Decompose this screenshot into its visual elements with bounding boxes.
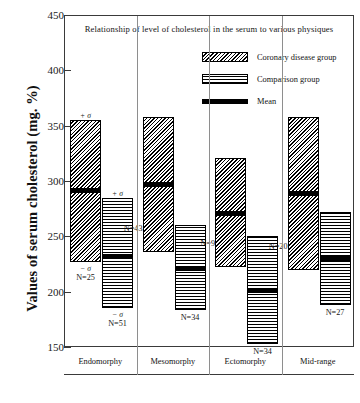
plus-sigma-label-comparison-endomorphy: + σ (96, 189, 139, 198)
y-tick-mark-400 (64, 70, 71, 71)
n-label-comparison-mid-range: N=27 (312, 308, 359, 317)
mean-line-comparison-ectomorphy (247, 288, 278, 293)
minus-sigma-label-comparison-endomorphy: − σ (96, 310, 139, 319)
mean-line-comparison-endomorphy (102, 254, 133, 259)
x-axis-label-ectomorphy: Ectomorphy (209, 357, 282, 366)
legend-label-comparison: Comparison group (257, 75, 320, 84)
y-tick-mark-200 (64, 292, 71, 293)
y-tick-label-250: 250 (24, 230, 64, 242)
x-axis-label-mid-range: Mid-range (282, 357, 355, 366)
plus-sigma-label-coronary-endomorphy: + σ (64, 111, 107, 120)
y-tick-label-350: 350 (24, 120, 64, 132)
cholesterol-bar-chart: Values of serum cholesterol (mg. %) Rela… (0, 0, 360, 403)
legend-item-comparison: Comparison group (202, 70, 352, 88)
x-axis-label-endomorphy: Endomorphy (64, 357, 137, 366)
mean-line-comparison-mid-range (320, 256, 351, 261)
legend-item-mean: Mean (202, 92, 352, 110)
mean-line-coronary-ectomorphy (215, 211, 246, 216)
y-tick-label-150: 150 (24, 341, 64, 353)
mean-line-coronary-mesomorphy (143, 182, 174, 187)
legend-label-coronary: Coronary disease group (257, 53, 337, 62)
legend-item-coronary: Coronary disease group (202, 48, 352, 66)
x-axis-label-mesomorphy: Mesomorphy (137, 357, 210, 366)
y-tick-mark-150 (64, 347, 71, 348)
y-tick-label-300: 300 (24, 175, 64, 187)
y-tick-label-400: 400 (24, 64, 64, 76)
legend: Coronary disease group Comparison group … (202, 48, 352, 114)
group-separator-2 (209, 16, 210, 347)
minus-sigma-label-coronary-endomorphy: − σ (64, 264, 107, 273)
legend-label-mean: Mean (257, 97, 276, 106)
y-tick-mark-300 (64, 181, 71, 182)
n-label-comparison-mesomorphy: N=34 (167, 313, 214, 322)
n-label-comparison-endomorphy: N=51 (94, 319, 141, 328)
mean-line-coronary-mid-range (288, 191, 319, 196)
y-tick-label-200: 200 (24, 286, 64, 298)
y-tick-mark-250 (64, 236, 71, 237)
group-separator-1 (137, 16, 138, 347)
y-axis-ticks: 450400350300250200150 (16, 0, 64, 403)
y-tick-mark-350 (64, 126, 71, 127)
group-separator-3 (282, 16, 283, 347)
mean-line-comparison-mesomorphy (175, 266, 206, 271)
y-tick-label-450: 450 (24, 9, 64, 21)
